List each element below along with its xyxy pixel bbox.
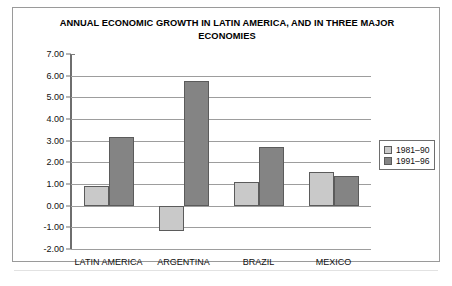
bar-group: MEXICO <box>296 54 371 249</box>
bar-1981–90-ARGENTINA <box>159 206 184 231</box>
legend-swatch-icon <box>384 157 392 165</box>
legend-swatch-icon <box>384 146 392 154</box>
bar-1991–96-BRAZIL <box>259 147 284 206</box>
category-label: LATIN AMERICA <box>75 257 143 267</box>
category-label: MEXICO <box>316 257 352 267</box>
legend-label: 1991–96 <box>396 156 429 166</box>
y-tick-label: 0.00 <box>46 201 64 211</box>
chart-figure: ANNUAL ECONOMIC GROWTH IN LATIN AMERICA,… <box>12 7 440 262</box>
bar-1981–90-BRAZIL <box>234 182 259 206</box>
y-tick-label: 1.00 <box>46 179 64 189</box>
y-tick-label: 3.00 <box>46 136 64 146</box>
bar-1991–96-ARGENTINA <box>184 81 209 206</box>
y-tick-label: 5.00 <box>46 92 64 102</box>
bar-group: ARGENTINA <box>146 54 221 249</box>
chart-legend: 1981–901991–96 <box>379 140 435 170</box>
y-tick-label: 4.00 <box>46 114 64 124</box>
y-tick-label: 6.00 <box>46 71 64 81</box>
bar-group: LATIN AMERICA <box>71 54 146 249</box>
category-label: BRAZIL <box>243 257 275 267</box>
y-tick-label: 2.00 <box>46 157 64 167</box>
chart-title: ANNUAL ECONOMIC GROWTH IN LATIN AMERICA,… <box>41 17 413 42</box>
y-tick-label: -2.00 <box>43 244 64 254</box>
y-tick-label: 7.00 <box>46 49 64 59</box>
bar-1991–96-LATIN AMERICA <box>109 137 134 205</box>
scan-artifact-line <box>14 270 438 271</box>
bar-1991–96-MEXICO <box>334 176 359 205</box>
legend-entry: 1991–96 <box>384 155 429 166</box>
bar-1981–90-LATIN AMERICA <box>84 186 109 206</box>
legend-entry: 1981–90 <box>384 144 429 155</box>
y-tick-label: -1.00 <box>43 222 64 232</box>
plot-area: 7.006.005.004.003.002.001.000.00-1.00-2.… <box>71 54 371 249</box>
gridline--2.00 <box>71 249 371 250</box>
bar-1981–90-MEXICO <box>309 172 334 206</box>
category-label: ARGENTINA <box>157 257 210 267</box>
bar-group: BRAZIL <box>221 54 296 249</box>
legend-label: 1981–90 <box>396 145 429 155</box>
